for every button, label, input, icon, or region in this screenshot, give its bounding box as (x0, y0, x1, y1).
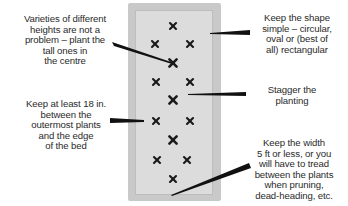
leader-lines (110, 30, 251, 196)
plant-marker-icon (170, 23, 176, 29)
plant-marker-icon (153, 118, 159, 124)
plant-markers (152, 23, 193, 182)
plant-marker-icon (169, 136, 176, 143)
leader-heights (112, 42, 172, 64)
plant-marker-icon (187, 118, 193, 124)
plant-marker-icon (187, 79, 193, 85)
plant-marker-icon (169, 96, 176, 103)
leader-shape (210, 30, 250, 35)
plant-marker-icon (170, 176, 176, 182)
leader-stagger (188, 92, 246, 96)
plant-marker-icon (152, 41, 158, 47)
leader-width (171, 163, 251, 196)
plant-marker-icon (184, 157, 190, 163)
plant-marker-icon (153, 79, 159, 85)
leader-edge (110, 118, 144, 123)
plant-marker-icon (187, 41, 193, 47)
plant-marker-icon (154, 157, 160, 163)
diagram-overlay (0, 0, 348, 206)
